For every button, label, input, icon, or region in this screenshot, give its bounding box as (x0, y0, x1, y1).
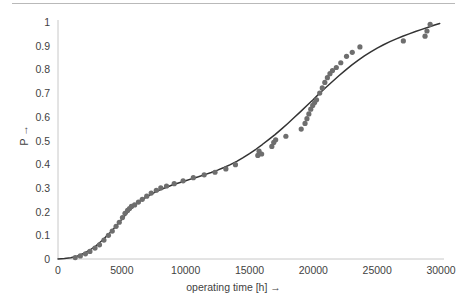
data-point-marker (144, 194, 149, 199)
data-point-marker (314, 97, 319, 102)
plot-canvas (0, 0, 467, 305)
data-point-marker (422, 34, 427, 39)
data-point-marker (158, 185, 163, 190)
data-point-markers (73, 22, 433, 260)
data-point-marker (317, 91, 322, 96)
data-point-marker (181, 178, 186, 183)
data-point-marker (273, 137, 278, 142)
y-tick-label: 0.8 (24, 64, 50, 75)
data-point-marker (344, 54, 349, 59)
x-tick-label: 5000 (92, 265, 152, 276)
y-tick-label: 0.7 (24, 88, 50, 99)
data-point-marker (357, 44, 362, 49)
x-axis-title: operating time [h] → (0, 282, 467, 293)
data-point-marker (322, 80, 327, 85)
data-point-marker (233, 162, 238, 167)
data-point-marker (83, 251, 88, 256)
y-tick-label: 0 (24, 254, 50, 265)
data-point-marker (334, 65, 339, 70)
data-point-marker (428, 22, 433, 27)
x-tick-label: 10000 (156, 265, 216, 276)
data-point-marker (92, 246, 97, 251)
x-tick-label: 25000 (347, 265, 407, 276)
x-tick-label: 30000 (411, 265, 467, 276)
data-point-marker (97, 242, 102, 247)
x-tick-label: 15000 (220, 265, 280, 276)
y-tick-label: 0.9 (24, 41, 50, 52)
data-point-marker (140, 197, 145, 202)
y-tick-label: 0.2 (24, 207, 50, 218)
data-point-marker (191, 175, 196, 180)
data-point-marker (223, 166, 228, 171)
fitted-curve-path (58, 23, 440, 259)
y-tick-label: 0.1 (24, 230, 50, 241)
data-point-marker (350, 50, 355, 55)
y-axis-title: P → (19, 105, 30, 165)
data-point-marker (110, 228, 115, 233)
data-point-marker (164, 183, 169, 188)
data-point-marker (154, 188, 159, 193)
y-tick-label: 0.3 (24, 183, 50, 194)
data-point-marker (320, 85, 325, 90)
chart-figure: 00.10.20.30.40.50.60.70.80.91 0500010000… (0, 0, 467, 305)
data-point-marker (202, 172, 207, 177)
x-tick-label: 0 (28, 265, 88, 276)
data-point-marker (424, 28, 429, 33)
data-point-marker (306, 111, 311, 116)
data-point-marker (117, 220, 122, 225)
data-point-marker (302, 121, 307, 126)
data-point-marker (299, 127, 304, 132)
data-point-marker (304, 116, 309, 121)
data-point-marker (78, 253, 83, 258)
data-point-marker (283, 134, 288, 139)
fitted-curve (58, 23, 440, 259)
axes-group (58, 20, 444, 259)
data-point-marker (149, 191, 154, 196)
data-point-marker (101, 237, 106, 242)
data-point-marker (338, 60, 343, 65)
data-point-marker (113, 224, 118, 229)
data-point-marker (401, 38, 406, 43)
data-point-marker (106, 233, 111, 238)
x-tick-label: 20000 (283, 265, 343, 276)
y-tick-label: 1 (24, 17, 50, 28)
data-point-marker (73, 255, 78, 260)
data-point-marker (172, 181, 177, 186)
data-point-marker (87, 249, 92, 254)
data-point-marker (259, 151, 264, 156)
data-point-marker (212, 170, 217, 175)
